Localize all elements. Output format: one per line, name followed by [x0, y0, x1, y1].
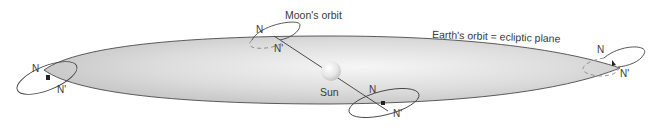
node-n-label: N [32, 63, 39, 74]
node-n-prime-label: N' [620, 68, 629, 79]
sun [321, 61, 341, 81]
node-n-label: N [256, 24, 263, 35]
node-n-label: N [597, 44, 604, 55]
ecliptic-diagram: Sun N N' N N' Moon's orbit N N' N N' Ear… [0, 0, 656, 128]
earth-marker [381, 101, 385, 105]
earth-marker [612, 60, 616, 66]
node-n-prime-label: N' [274, 43, 283, 54]
node-n-prime-label: N' [393, 108, 402, 119]
moon-orbit-left: N N' [13, 55, 81, 101]
node-n-label: N [369, 84, 376, 95]
moon-orbit-ellipse-upper [604, 47, 645, 67]
moons-orbit-label: Moon's orbit [285, 9, 342, 21]
node-n-prime-label: N' [57, 84, 66, 95]
earth-marker [46, 75, 50, 80]
sun-label: Sun [320, 86, 339, 98]
